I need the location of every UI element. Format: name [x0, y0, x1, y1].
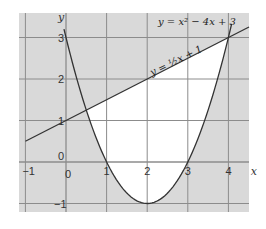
- x-axis-label: x: [251, 165, 258, 178]
- y-tick-label: −1: [54, 198, 67, 210]
- parabola-label: y = x² − 4x + 3: [157, 16, 236, 27]
- plot-area: −101234−11230xyy = x² − 4x + 3y = ½x + 1: [19, 11, 258, 212]
- x-tick-label: 2: [144, 165, 150, 177]
- x-tick-label: −1: [22, 165, 35, 177]
- origin-label: 0: [58, 150, 64, 162]
- y-axis-label: y: [57, 11, 65, 24]
- x-tick-label: 3: [185, 165, 191, 177]
- y-tick-label: 1: [58, 115, 64, 127]
- x-tick-label: 0: [65, 168, 71, 180]
- x-tick-label: 4: [225, 165, 231, 177]
- chart: −101234−11230xyy = x² − 4x + 3y = ½x + 1: [0, 0, 266, 229]
- y-tick-label: 2: [58, 73, 64, 85]
- y-tick-label: 3: [58, 32, 64, 44]
- x-tick-label: 1: [104, 165, 110, 177]
